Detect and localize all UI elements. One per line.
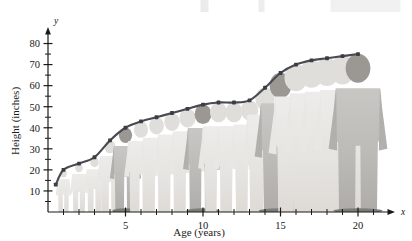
x-tick-label: 20 (353, 220, 364, 231)
data-point-marker (232, 101, 236, 105)
y-tick-label: 50 (30, 102, 41, 113)
x-variable-label: x (400, 207, 406, 217)
data-point-marker (93, 155, 97, 159)
data-point-marker (170, 111, 174, 115)
silhouette-head (346, 54, 371, 83)
data-point-marker (310, 58, 314, 62)
y-tick-label: 30 (30, 144, 41, 155)
data-point-marker (248, 98, 252, 102)
x-axis-title: Age (years) (173, 226, 225, 239)
y-tick-label: 60 (30, 80, 41, 91)
data-point-marker (108, 139, 112, 143)
data-point-marker (263, 86, 267, 90)
data-point-marker (341, 54, 345, 58)
data-point-marker (279, 71, 283, 75)
silhouette-head (210, 102, 227, 122)
x-tick-label: 5 (123, 220, 128, 231)
x-tick-label: 15 (275, 220, 286, 231)
data-point-marker (201, 103, 205, 107)
y-tick-label: 10 (30, 186, 41, 197)
data-point-marker (217, 101, 221, 105)
data-point-marker (186, 107, 190, 111)
y-axis-title: Height (inches) (9, 87, 22, 155)
silhouette-head (195, 104, 212, 124)
data-point-marker (124, 126, 128, 130)
data-point-marker (325, 56, 329, 60)
data-point-marker (62, 168, 66, 172)
data-point-marker (54, 183, 58, 187)
y-variable-label: y (53, 16, 59, 26)
data-point-marker (294, 63, 298, 67)
data-point-marker (139, 120, 143, 124)
growth-curve-figure: 1020304050607080 5101520 y x Age (years)… (0, 0, 412, 241)
y-tick-label: 70 (30, 59, 41, 70)
y-tick-label: 80 (30, 38, 41, 49)
growth-chart: 1020304050607080 5101520 y x Age (years)… (0, 0, 412, 241)
y-tick-label: 20 (30, 165, 41, 176)
silhouette-head (225, 102, 242, 122)
data-point-marker (356, 52, 360, 56)
data-point-marker (77, 162, 81, 166)
y-tick-label: 40 (30, 123, 41, 134)
data-point-marker (155, 115, 159, 119)
